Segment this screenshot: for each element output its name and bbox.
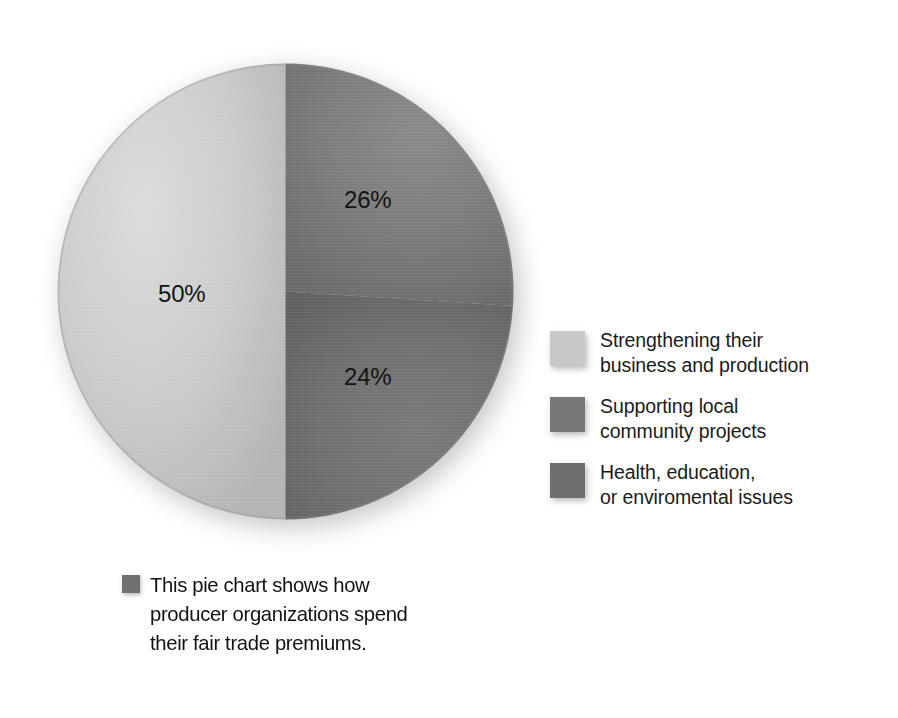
legend-item-strengthening: Strengthening their business and product… bbox=[550, 328, 880, 378]
caption-line2: producer organizations spend bbox=[150, 599, 408, 628]
pie-label-24-percent: 24% bbox=[344, 363, 391, 391]
legend-label-line1: Strengthening their bbox=[600, 329, 763, 351]
legend-label-line2: or enviromental issues bbox=[600, 485, 793, 510]
legend-label-strengthening: Strengthening their business and product… bbox=[600, 328, 809, 378]
pie-label-50-percent: 50% bbox=[158, 280, 205, 308]
legend-label-line1: Health, education, bbox=[600, 461, 755, 483]
legend-label-line1: Supporting local bbox=[600, 395, 738, 417]
legend-swatch-community bbox=[550, 397, 585, 432]
legend-label-line2: community projects bbox=[600, 419, 766, 444]
caption-bullet-square bbox=[122, 575, 140, 593]
legend-item-health: Health, education, or enviromental issue… bbox=[550, 460, 880, 510]
legend-swatch-health bbox=[550, 463, 585, 498]
caption-line3: their fair trade premiums. bbox=[150, 628, 408, 657]
legend-label-community: Supporting local community projects bbox=[600, 394, 766, 444]
caption-text: This pie chart shows how producer organi… bbox=[150, 570, 408, 657]
chart-caption: This pie chart shows how producer organi… bbox=[122, 570, 522, 657]
legend-label-health: Health, education, or enviromental issue… bbox=[600, 460, 793, 510]
caption-line1: This pie chart shows how bbox=[150, 570, 408, 599]
legend-swatch-strengthening bbox=[550, 331, 585, 366]
legend-item-community: Supporting local community projects bbox=[550, 394, 880, 444]
pie-label-26-percent: 26% bbox=[344, 186, 391, 214]
chart-legend: Strengthening their business and product… bbox=[550, 328, 880, 526]
legend-label-line2: business and production bbox=[600, 353, 809, 378]
pie-slices-svg bbox=[57, 63, 514, 520]
pie-chart: 50% 26% 24% bbox=[57, 63, 514, 520]
